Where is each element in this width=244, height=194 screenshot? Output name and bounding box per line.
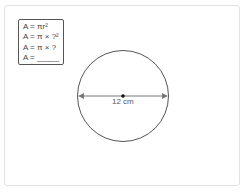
diameter-label: 12 cm bbox=[112, 97, 134, 106]
arrowhead-right-icon bbox=[162, 93, 168, 99]
arrowhead-left-icon bbox=[78, 93, 84, 99]
